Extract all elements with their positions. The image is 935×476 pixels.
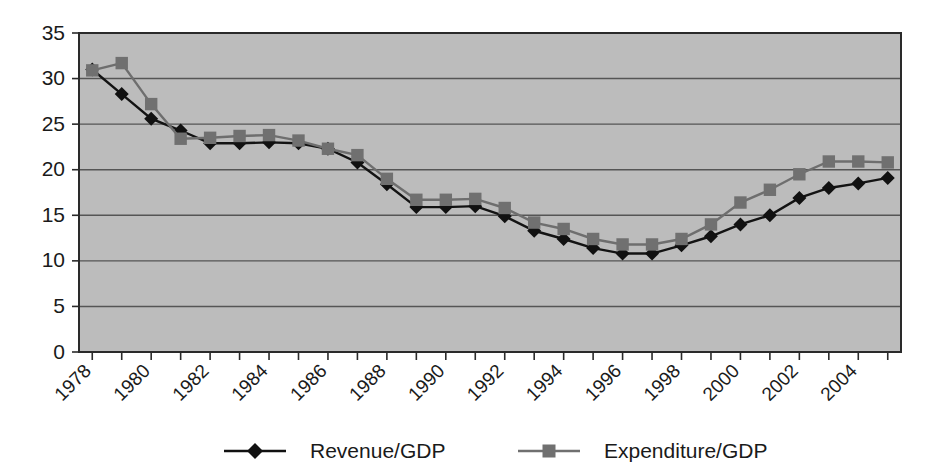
data-point-marker: [116, 57, 128, 69]
data-point-marker: [675, 233, 687, 245]
data-point-marker: [145, 98, 157, 110]
data-point-marker: [233, 130, 245, 142]
line-chart: 05101520253035 1978198019821984198619881…: [0, 0, 935, 476]
y-tick-label: 35: [42, 21, 65, 44]
legend-label: Expenditure/GDP: [604, 439, 767, 462]
legend-marker: [543, 445, 556, 458]
data-point-marker: [528, 216, 540, 228]
data-point-marker: [469, 193, 481, 205]
data-point-marker: [587, 233, 599, 245]
data-point-marker: [410, 194, 422, 206]
data-point-marker: [852, 155, 864, 167]
data-point-marker: [292, 134, 304, 146]
data-point-marker: [793, 168, 805, 180]
data-point-marker: [823, 155, 835, 167]
y-tick-label: 30: [42, 66, 65, 89]
data-point-marker: [204, 132, 216, 144]
y-tick-label: 5: [53, 294, 65, 317]
data-point-marker: [381, 173, 393, 185]
data-point-marker: [499, 202, 511, 214]
data-point-marker: [263, 129, 275, 141]
data-point-marker: [882, 156, 894, 168]
data-point-marker: [734, 196, 746, 208]
data-point-marker: [705, 218, 717, 230]
data-point-marker: [440, 194, 452, 206]
data-point-marker: [557, 223, 569, 235]
data-point-marker: [616, 238, 628, 250]
data-point-marker: [86, 64, 98, 76]
data-point-marker: [764, 184, 776, 196]
data-point-marker: [322, 143, 334, 155]
y-tick-label: 10: [42, 248, 65, 271]
data-point-marker: [174, 133, 186, 145]
data-point-marker: [646, 238, 658, 250]
y-tick-label: 25: [42, 112, 65, 135]
chart-container: 05101520253035 1978198019821984198619881…: [0, 0, 935, 476]
plot-area-background: [79, 33, 901, 352]
y-tick-label: 0: [53, 340, 65, 363]
y-tick-label: 20: [42, 157, 65, 180]
data-point-marker: [351, 149, 363, 161]
legend-label: Revenue/GDP: [310, 439, 445, 462]
y-tick-label: 15: [42, 203, 65, 226]
